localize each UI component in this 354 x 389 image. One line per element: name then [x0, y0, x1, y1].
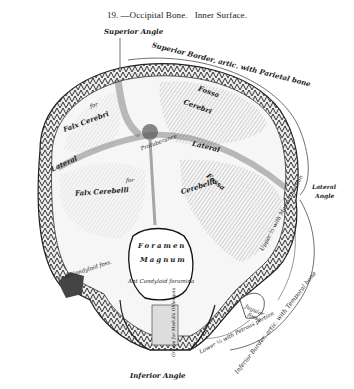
- label-lateral-angle-1: Lateral: [312, 184, 336, 190]
- internal-protuberance: [142, 124, 158, 140]
- label-magnum: Magnum: [140, 256, 187, 263]
- label-foramen: Foramen: [138, 242, 186, 249]
- label-inferior-angle: Inferior Angle: [130, 372, 186, 379]
- occipital-bone-illustration: [0, 0, 354, 389]
- label-lateral-angle-2: Angle: [315, 193, 334, 199]
- label-superior-angle: Superior Angle: [104, 28, 163, 35]
- foramen-magnum: [129, 229, 193, 300]
- label-groove-medulla: Groove for Medulla Oblongata: [172, 288, 177, 357]
- label-for-cerebelli: for: [126, 178, 134, 184]
- label-ant-condyloid: Ant Condyloid foramina: [128, 279, 194, 285]
